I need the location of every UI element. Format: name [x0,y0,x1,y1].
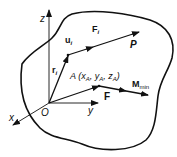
z-axis-label: z [39,13,45,24]
position-vector-r-i [49,56,68,103]
unit-vector-u-i [68,47,93,55]
u-i-label: ui [65,35,73,46]
F-label: F [104,91,110,102]
P-label: P [130,39,137,50]
origin-label: O [41,107,49,118]
force-system-diagram: z x y O ri ui Fi P F Mmin A (xA, yA, zA) [0,0,177,157]
minimum-moment-M-min-ext [126,91,148,95]
resultant-force-F [49,86,99,103]
F-i-label: Fi [92,24,100,35]
x-axis-label: x [8,112,15,123]
application-point [67,54,70,57]
y-axis-label: y [87,105,94,116]
point-A-coordinates: A (xA, yA, zA) [69,71,120,82]
M-min-label: Mmin [132,79,149,90]
r-i-label: ri [52,65,58,76]
